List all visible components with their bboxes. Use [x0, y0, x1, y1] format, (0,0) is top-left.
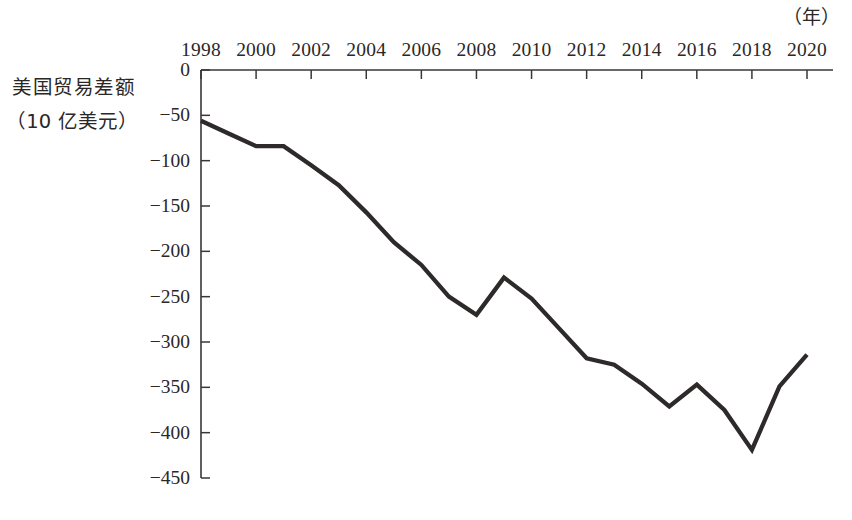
x-tick-label: 2018: [730, 40, 774, 60]
x-tick-label: 2000: [234, 40, 278, 60]
trade-balance-chart: （年） 美国贸易差额 （10 亿美元） 19982000200220042006…: [0, 0, 852, 520]
x-tick-label: 2020: [785, 40, 829, 60]
y-axis-title-line1: 美国贸易差额: [12, 78, 135, 98]
x-axis-unit-label: （年）: [783, 8, 840, 27]
y-tick-label: −450: [96, 468, 190, 488]
x-tick-label: 2004: [344, 40, 388, 60]
y-tick-label: −350: [96, 377, 190, 397]
x-tick-label: 2016: [675, 40, 719, 60]
y-tick-label: −250: [96, 287, 190, 307]
axes-group: [201, 70, 833, 478]
y-tick-label: −300: [96, 332, 190, 352]
trade-balance-line: [201, 121, 807, 450]
y-tick-label: 0: [96, 60, 190, 80]
x-tick-label: 2006: [399, 40, 443, 60]
y-tick-label: −400: [96, 423, 190, 443]
x-tick-label: 2010: [510, 40, 554, 60]
y-tick-label: −200: [96, 241, 190, 261]
x-tick-label: 2012: [565, 40, 609, 60]
x-tick-label: 2014: [620, 40, 664, 60]
y-tick-label: −150: [96, 196, 190, 216]
x-tick-marks: [201, 70, 807, 79]
y-tick-label: −100: [96, 151, 190, 171]
x-tick-label: 2002: [289, 40, 333, 60]
y-tick-label: −50: [96, 105, 190, 125]
x-tick-label: 2008: [454, 40, 498, 60]
y-tick-marks: [201, 70, 210, 478]
x-tick-label: 1998: [179, 40, 223, 60]
